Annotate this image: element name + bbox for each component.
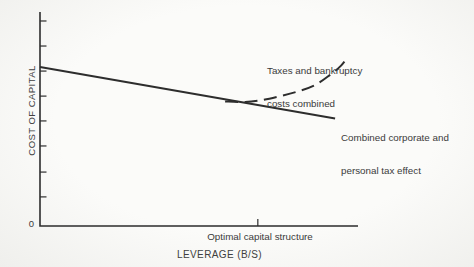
curve-label-tax-effect: Combined corporate and personal tax effe… [341, 110, 449, 198]
optimal-capital-structure-label: Optimal capital structure [204, 231, 316, 242]
cost-of-capital-figure: COST OF CAPITAL 0 Optimal capital struct… [0, 0, 474, 267]
origin-zero-label: 0 [24, 218, 34, 229]
curve-label-taxes-bankruptcy-line1: Taxes and bankruptcy [267, 65, 362, 76]
curve-label-tax-effect-line1: Combined corporate and [341, 132, 449, 143]
y-axis-title: COST OF CAPITAL [26, 56, 37, 166]
x-axis-title: LEVERAGE (B/S) [177, 249, 262, 260]
curve-label-taxes-bankruptcy-line2: costs combined [267, 98, 362, 109]
axis-ticks [40, 21, 258, 226]
curve-label-tax-effect-line2: personal tax effect [341, 165, 449, 176]
